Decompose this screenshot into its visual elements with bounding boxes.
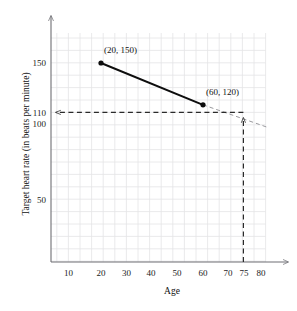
x-tick-label-70: 70 xyxy=(224,268,234,278)
x-tick-label-40: 40 xyxy=(147,268,157,278)
heart-rate-line-chart: (20, 150) (60, 120) 150 110 100 50 10 20… xyxy=(0,0,297,311)
x-tick-label-10: 10 xyxy=(64,268,74,278)
y-tick-label-110: 110 xyxy=(33,108,47,118)
x-tick-label-20: 20 xyxy=(97,268,107,278)
data-point-20-150 xyxy=(98,60,103,65)
x-tick-label-75: 75 xyxy=(240,268,250,278)
y-tick-label-100: 100 xyxy=(33,119,47,129)
y-tick-label-150: 150 xyxy=(33,58,47,68)
x-tick-label-80: 80 xyxy=(257,268,267,278)
y-tick-label-50: 50 xyxy=(37,195,47,205)
x-tick-label-30: 30 xyxy=(122,268,132,278)
chart-container: (20, 150) (60, 120) 150 110 100 50 10 20… xyxy=(0,0,297,311)
x-axis-title: Age xyxy=(164,286,180,296)
x-tick-label-50: 50 xyxy=(173,268,183,278)
data-label-point-b: (60, 120) xyxy=(206,87,239,97)
y-axis-title: Target heart rate (in beats per minute) xyxy=(21,72,32,215)
data-label-point-a: (20, 150) xyxy=(104,45,137,55)
x-tick-label-60: 60 xyxy=(199,268,209,278)
data-point-60-120 xyxy=(200,102,205,107)
chart-background xyxy=(0,0,297,311)
